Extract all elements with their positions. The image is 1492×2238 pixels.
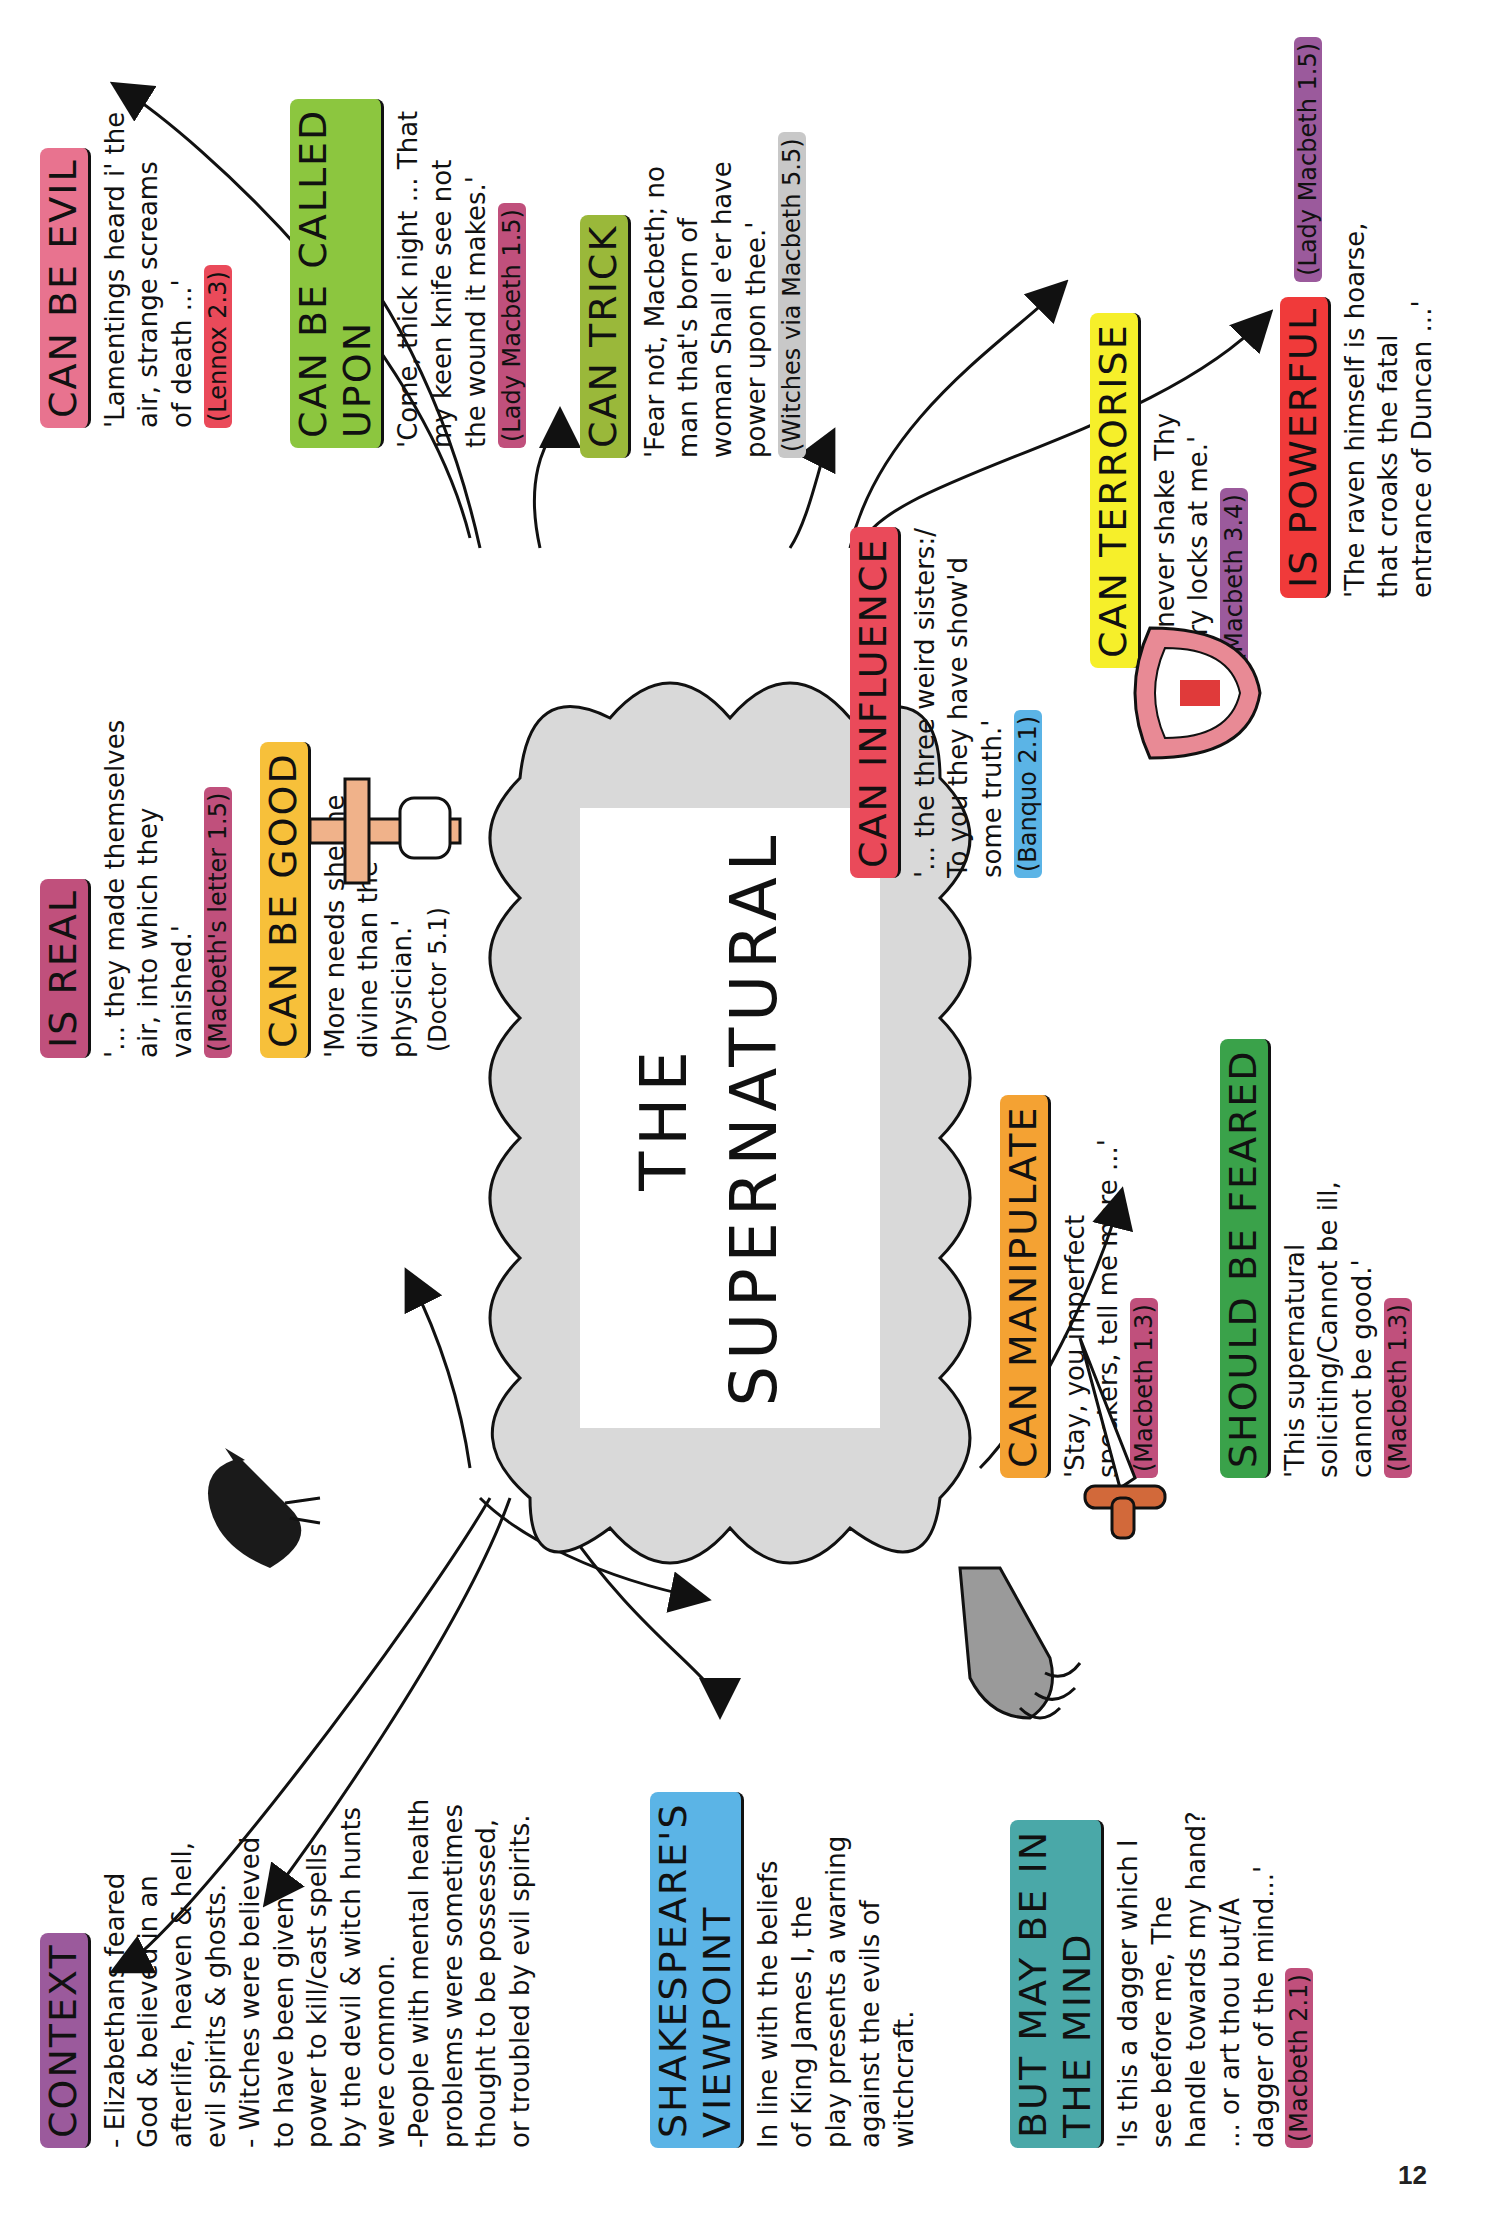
heading-can-manipulate: CAN MANIPULATE bbox=[1000, 1096, 1051, 1479]
node-can-trick: CAN TRICK 'Fear not, Macbeth; no man tha… bbox=[580, 132, 806, 458]
quote-is-powerful: 'The raven himself is hoarse, that croak… bbox=[1339, 37, 1440, 598]
node-should-be-feared: SHOULD BE FEARED 'This supernatural soli… bbox=[1220, 1039, 1412, 1478]
raven-icon bbox=[180, 1448, 330, 1578]
cite-should-be-feared: (Macbeth 1.3) bbox=[1384, 1298, 1412, 1478]
node-viewpoint: SHAKESPEARE'S VIEWPOINT In line with the… bbox=[650, 1628, 921, 2148]
cite-can-trick: (Witches via Macbeth 5.5) bbox=[778, 132, 806, 458]
node-is-powerful: IS POWERFUL (Lady Macbeth 1.5) 'The rave… bbox=[1280, 37, 1440, 598]
dagger-icon bbox=[1060, 1328, 1180, 1548]
cite-can-be-evil: (Lennox 2.3) bbox=[204, 265, 232, 428]
heading-can-be-called-upon: CAN BE CALLED UPON bbox=[290, 99, 384, 448]
mind-map-canvas: THE SUPERNATURAL CAN BE EVIL 'Lamentings… bbox=[0, 0, 1492, 2238]
heading-in-the-mind: BUT MAY BE IN THE MIND bbox=[1010, 1820, 1104, 2148]
node-can-terrorise: CAN TERRORISE '... never shake Thy gory … bbox=[1090, 313, 1248, 668]
central-title-line2: SUPERNATURAL bbox=[710, 758, 800, 1478]
heading-can-terrorise: CAN TERRORISE bbox=[1090, 313, 1141, 668]
heading-can-influence: CAN INFLUENCE bbox=[850, 527, 901, 878]
central-title-line1: THE bbox=[620, 758, 710, 1478]
node-can-be-called-upon: CAN BE CALLED UPON 'Come, thick night ..… bbox=[290, 48, 526, 448]
quote-is-real: '... they made themselves air, into whic… bbox=[99, 720, 200, 1058]
heading-can-be-evil: CAN BE EVIL bbox=[40, 148, 91, 428]
cite-in-the-mind: (Macbeth 2.1) bbox=[1285, 1968, 1313, 2148]
quote-can-trick: 'Fear not, Macbeth; no man that's born o… bbox=[639, 132, 774, 458]
cite-is-real: (Macbeth's letter 1.5) bbox=[204, 787, 232, 1058]
text-viewpoint: In line with the beliefs of King James I… bbox=[752, 1628, 921, 2148]
cite-can-be-good: (Doctor 5.1) bbox=[424, 901, 452, 1058]
heading-is-powerful: IS POWERFUL bbox=[1280, 297, 1331, 598]
cite-can-influence: (Banquo 2.1) bbox=[1014, 710, 1042, 878]
text-context: - Elizabethans feared God & believed in … bbox=[99, 1588, 538, 2148]
fanged-mouth-icon bbox=[1130, 618, 1270, 768]
quote-in-the-mind: 'Is this a dagger which I see before me,… bbox=[1112, 1528, 1281, 2148]
heading-can-trick: CAN TRICK bbox=[580, 215, 631, 458]
central-title: THE SUPERNATURAL bbox=[620, 758, 799, 1478]
cross-in-hand-icon bbox=[300, 758, 470, 898]
quote-can-be-evil: 'Lamentings heard i' the air, strange sc… bbox=[99, 112, 200, 428]
clawed-hand-icon bbox=[940, 1558, 1090, 1738]
heading-viewpoint: SHAKESPEARE'S VIEWPOINT bbox=[650, 1792, 744, 2148]
node-context: CONTEXT - Elizabethans feared God & beli… bbox=[40, 1588, 538, 2148]
quote-can-be-called-upon: 'Come, thick night ... That my keen knif… bbox=[392, 48, 493, 448]
heading-context: CONTEXT bbox=[40, 1933, 91, 2148]
heading-should-be-feared: SHOULD BE FEARED bbox=[1220, 1039, 1271, 1478]
cite-is-powerful: (Lady Macbeth 1.5) bbox=[1294, 37, 1322, 282]
node-can-be-evil: CAN BE EVIL 'Lamentings heard i' the air… bbox=[40, 112, 232, 428]
quote-should-be-feared: 'This supernatural soliciting/Cannot be … bbox=[1279, 1039, 1380, 1478]
page-number: 12 bbox=[1398, 2160, 1427, 2191]
heading-is-real: IS REAL bbox=[40, 879, 91, 1058]
quote-can-terrorise: '... never shake Thy gory locks at me.' bbox=[1149, 313, 1217, 668]
quote-can-influence: '... the three weird sisters:/ To you th… bbox=[909, 418, 1010, 878]
node-can-influence: CAN INFLUENCE '... the three weird siste… bbox=[850, 418, 1042, 878]
node-is-real: IS REAL '... they made themselves air, i… bbox=[40, 720, 232, 1058]
cite-can-be-called-upon: (Lady Macbeth 1.5) bbox=[498, 203, 526, 448]
